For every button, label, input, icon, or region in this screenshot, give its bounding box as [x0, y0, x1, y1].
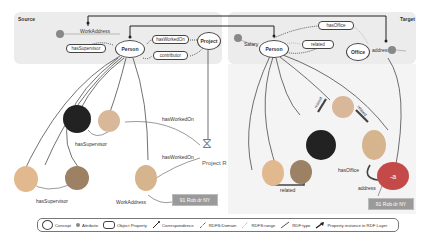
target-person-suit-avatar [362, 130, 386, 160]
hasworkedon-instance-label-1: hasWorkedOn [162, 116, 194, 122]
rdf-type-line-icon [280, 221, 290, 229]
person-instance-male-avatar [98, 110, 120, 132]
legend-property-instance: Property instance in RDF Layer [315, 221, 387, 229]
address-instance-label: address [358, 185, 376, 191]
legend-object-property: Object Property [103, 221, 147, 229]
target-person-female-avatar [262, 160, 284, 186]
salary-label: Salary [244, 41, 258, 47]
legend: Concept Attribute Object Property Corres… [37, 218, 399, 232]
salary-attribute-dot [234, 34, 242, 42]
legend-rdfs-range: RDFS:range [241, 221, 275, 229]
target-person-girl-avatar [290, 160, 312, 184]
source-person-concept[interactable]: Person [115, 40, 145, 58]
workaddress-label: WorkAddress [80, 28, 110, 34]
target-person-concept[interactable]: Person [259, 40, 289, 58]
correspondence-line-icon [152, 221, 160, 229]
hasoffice-property[interactable]: hasOffice [318, 21, 354, 30]
hasworkedon-instance-label-2: hasWorkedOn [162, 154, 194, 160]
legend-correspondence: Correspondence [152, 221, 194, 229]
rdfs-range-line-icon [241, 221, 249, 229]
target-person-male-avatar [332, 96, 354, 118]
object-property-box-icon [103, 221, 115, 229]
hassupervisor-instance-label-1: hasSupervisor [75, 141, 107, 147]
person-instance-female-avatar [14, 166, 38, 192]
office-instance-node: -a [377, 162, 409, 190]
target-person-glasses-avatar [306, 130, 336, 160]
target-address-literal: 91 Rob dr NY [368, 198, 414, 210]
source-address-literal: 91 Rob dr NY [172, 194, 218, 206]
legend-rdf-type: RDF:type [280, 221, 310, 229]
concept-ellipse-icon [42, 220, 53, 230]
attribute-dot-icon [76, 223, 80, 227]
related-instance-label: related [280, 187, 295, 193]
project-r-label: Project R [202, 160, 227, 166]
related-property[interactable]: related [302, 40, 334, 49]
hasoffice-instance-label: hasOffice [338, 167, 359, 173]
rdfs-domain-line-icon [199, 221, 207, 229]
workaddress-instance-label: WorkAddress [116, 199, 146, 205]
hassupervisor-property[interactable]: hasSupervisor [66, 44, 106, 53]
person-instance-suit-avatar [135, 165, 157, 191]
person-instance-glasses-avatar [63, 105, 91, 133]
legend-rdfs-domain: RDFS:Domain [199, 221, 237, 229]
dna-project-icon: ⧖ [199, 135, 215, 159]
property-instance-arrow-icon [315, 221, 325, 229]
legend-attribute: Attribute [76, 223, 98, 228]
contributor-property[interactable]: contributor [153, 51, 188, 60]
hassupervisor-instance-label-2: hasSupervisor [36, 198, 68, 204]
source-attribute-dot [56, 30, 64, 38]
target-office-concept[interactable]: Office [346, 43, 370, 61]
hasworkedon-property[interactable]: hasWorkedOn [152, 35, 189, 44]
person-instance-girl-avatar [65, 166, 89, 190]
legend-concept: Concept [42, 220, 71, 230]
source-project-concept[interactable]: Project [197, 32, 221, 50]
address-attribute-dot [388, 46, 396, 54]
